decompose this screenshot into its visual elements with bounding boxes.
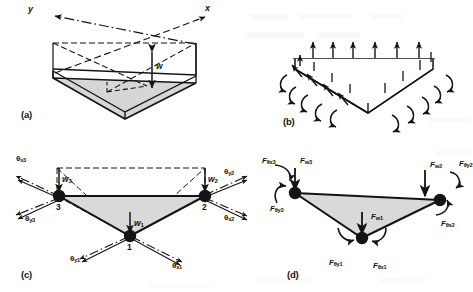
- scan-noise: [150, 14, 470, 288]
- panel-c-letter: (c): [21, 270, 32, 280]
- theta-subscript: y3: [29, 217, 35, 223]
- F-subscript: θx2: [446, 222, 455, 228]
- panel-a-graphic: [53, 16, 205, 119]
- theta-subscript: y2: [228, 170, 234, 176]
- figure-canvas: [0, 0, 473, 292]
- panel-c-node-1-dot: [124, 230, 136, 242]
- panel-d-F-theta-y1-label: Fθy1: [329, 259, 343, 268]
- panel-c-node-1-label: 1: [127, 243, 132, 252]
- panel-d-letter: (d): [287, 270, 299, 280]
- panel-d-F-theta-x1-label: Fθx1: [373, 262, 387, 271]
- panel-c-theta-x1-label: θx1: [172, 262, 182, 271]
- panel-c-w2-label: w2: [208, 175, 218, 184]
- panel-c-theta-y2-label: θy2: [224, 168, 234, 177]
- w-subscript: 1: [140, 221, 143, 228]
- panel-a-w-label: w: [156, 62, 162, 71]
- panel-a-x-axis: [55, 17, 205, 73]
- figure-plate-bending-element: y x w (a) (b) θx3 θy3 w3 3 w2 θy2 θx2 2 …: [0, 0, 473, 292]
- panel-c-node-2-dot: [199, 190, 211, 202]
- F-subscript: θy3: [275, 207, 284, 213]
- panel-c-w1-label: w1: [134, 219, 144, 228]
- panel-b-transverse-load-arrows: [313, 42, 419, 58]
- panel-a-letter: (a): [21, 110, 32, 120]
- panel-c-theta-x2-label: θx2: [224, 214, 234, 223]
- panel-c-node-3-dot: [53, 190, 65, 202]
- panel-a-slab-top-face: [53, 43, 196, 75]
- panel-c-element-triangle: [59, 196, 205, 236]
- panel-d-node-1-dot: [356, 232, 368, 244]
- panel-b-plate-thickness: [295, 59, 433, 113]
- panel-d-F-theta-x3-label: Fθx3: [262, 157, 276, 166]
- theta-subscript: x1: [176, 264, 182, 270]
- w-subscript: 2: [214, 177, 217, 184]
- panel-c-w3-label: w3: [62, 175, 72, 184]
- panel-d-element-triangle: [295, 193, 440, 238]
- panel-c-theta-y3-label: θy3: [25, 215, 35, 224]
- panel-a-y-axis: [55, 16, 195, 44]
- panel-d-Fty2-moment: [450, 172, 459, 188]
- panel-c-theta-y1-label: θy1: [70, 255, 80, 264]
- panel-d-F-w2-label: Fw2: [430, 161, 442, 170]
- panel-c-node-3-label: 3: [56, 203, 61, 212]
- F-subscript: θx1: [378, 264, 387, 270]
- panel-d-F-w1-label: Fw1: [371, 213, 383, 222]
- panel-a-y-axis-label: y: [28, 5, 33, 14]
- F-subscript: θy2: [464, 162, 473, 168]
- panel-b-letter: (b): [283, 117, 295, 127]
- F-subscript: θy1: [334, 261, 343, 267]
- panel-d-F-theta-y3-label: Fθy3: [270, 205, 284, 214]
- panel-d-F-theta-y2-label: Fθy2: [459, 160, 473, 169]
- panel-d-node-2-dot: [434, 194, 446, 206]
- theta-subscript: x2: [228, 216, 234, 222]
- w-subscript: 3: [68, 177, 71, 184]
- panel-c-node-2-label: 2: [202, 203, 207, 212]
- panel-d-Fty3-moment: [275, 186, 286, 203]
- panel-c-theta-x3-label: θx3: [16, 155, 26, 164]
- F-subscript: w1: [376, 215, 383, 221]
- F-subscript: θx3: [267, 159, 276, 165]
- F-subscript: w3: [305, 159, 312, 165]
- panel-d-Ftx3-moment: [275, 165, 290, 181]
- panel-a-x-axis-label: x: [205, 4, 210, 13]
- panel-b-graphic: [280, 42, 452, 132]
- panel-c-node3-rotations: [16, 176, 59, 219]
- F-subscript: w2: [435, 163, 442, 169]
- theta-subscript: y1: [74, 257, 80, 263]
- panel-d-F-w3-label: Fw3: [300, 157, 312, 166]
- panel-d-node-3-dot: [289, 187, 301, 199]
- theta-subscript: x3: [20, 157, 26, 163]
- panel-d-F-theta-x2-label: Fθx2: [441, 220, 455, 229]
- panel-d-graphic: [275, 165, 459, 244]
